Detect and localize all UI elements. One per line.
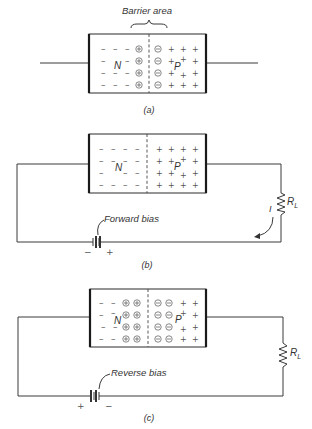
svg-text:+: + [156, 181, 163, 190]
n-region-label-a: N [114, 60, 122, 71]
svg-text:+: + [180, 171, 187, 180]
svg-text:–: – [111, 180, 116, 190]
svg-text:–: – [123, 156, 128, 166]
bias-label-b: Forward bias [104, 213, 159, 224]
junction-box-a [89, 34, 206, 93]
junction-box-b [89, 134, 206, 193]
svg-text:+: + [192, 169, 199, 178]
resistor-c [279, 343, 287, 367]
battery-sign-left-c: + [77, 401, 85, 411]
svg-text:–: – [125, 56, 130, 66]
svg-text:+: + [192, 335, 199, 344]
svg-text:–: – [101, 68, 106, 78]
svg-text:+: + [192, 323, 199, 332]
panel-a: Barrier area ––– –– ––– ––– N [40, 5, 258, 115]
svg-text:–: – [99, 156, 104, 166]
circuit-wire-right-c [206, 317, 283, 343]
bias-leader-c [99, 374, 110, 389]
svg-text:+: + [156, 157, 163, 166]
p-region-label-a: P [174, 61, 181, 72]
current-arrow-b [258, 217, 273, 236]
svg-text:+: + [192, 145, 199, 154]
resistor-label-c: RL [290, 347, 301, 360]
svg-text:–: – [99, 298, 104, 308]
n-region-label-b: N [115, 162, 123, 173]
battery-sign-right-c: − [105, 401, 113, 411]
bias-label-c: Reverse bias [111, 367, 167, 378]
svg-text:–: – [123, 180, 128, 190]
resistor-b [277, 193, 285, 215]
svg-text:+: + [192, 181, 199, 190]
svg-text:–: – [101, 80, 106, 90]
svg-text:–: – [125, 44, 130, 54]
barrier-brace [131, 20, 167, 28]
svg-text:–: – [99, 334, 104, 344]
caption-b: (b) [142, 260, 153, 270]
svg-text:–: – [111, 298, 116, 308]
battery-c [91, 390, 99, 402]
svg-text:+: + [192, 81, 199, 90]
svg-text:+: + [180, 145, 187, 154]
svg-text:+: + [192, 45, 199, 54]
svg-text:–: – [111, 334, 116, 344]
battery-sign-right-b: + [106, 247, 114, 257]
svg-text:–: – [135, 156, 140, 166]
caption-c: (c) [144, 413, 155, 423]
svg-text:–: – [123, 168, 128, 178]
circuit-wire-right-b [206, 164, 281, 193]
svg-text:–: – [101, 44, 106, 54]
resistor-label-b: RL [287, 196, 298, 209]
svg-text:+: + [180, 155, 187, 164]
svg-text:–: – [99, 180, 104, 190]
svg-text:+: + [156, 145, 163, 154]
circuit-wire-left-c [18, 317, 91, 396]
svg-text:–: – [99, 310, 104, 320]
svg-text:+: + [192, 57, 199, 66]
svg-text:+: + [192, 311, 199, 320]
svg-text:+: + [180, 335, 187, 344]
svg-text:–: – [125, 80, 130, 90]
svg-text:–: – [99, 168, 104, 178]
svg-text:+: + [192, 69, 199, 78]
svg-text:+: + [180, 45, 187, 54]
svg-text:–: – [135, 180, 140, 190]
pn-junction-diagram: Barrier area ––– –– ––– ––– N [0, 0, 312, 429]
panel-c: RL + − Reverse bias –– –– –– –– N [18, 289, 301, 423]
barrier-area-label: Barrier area [122, 5, 172, 16]
svg-text:–: – [101, 322, 106, 332]
svg-text:+: + [156, 169, 163, 178]
svg-text:+: + [192, 157, 199, 166]
battery-sign-left-b: − [84, 247, 92, 257]
battery-b [93, 236, 100, 248]
current-arrowhead-b [254, 233, 260, 239]
caption-a: (a) [144, 105, 155, 115]
svg-text:+: + [180, 325, 187, 334]
svg-text:+: + [168, 45, 175, 54]
svg-text:+: + [192, 299, 199, 308]
svg-text:–: – [113, 80, 118, 90]
svg-text:–: – [135, 168, 140, 178]
svg-text:+: + [168, 81, 175, 90]
svg-text:+: + [180, 71, 187, 80]
svg-text:–: – [123, 144, 128, 154]
n-region-label-c: N [114, 315, 122, 326]
p-region-label-b: P [174, 161, 181, 172]
p-region-label-c: P [175, 314, 182, 325]
panel-b: RL I − + Forward bias –––– –––– ––– ––––… [17, 134, 298, 270]
svg-text:–: – [113, 44, 118, 54]
svg-text:+: + [180, 55, 187, 64]
svg-text:+: + [180, 299, 187, 308]
svg-text:+: + [168, 181, 175, 190]
svg-text:+: + [180, 81, 187, 90]
current-label-b: I [269, 204, 272, 214]
svg-text:–: – [125, 68, 130, 78]
svg-text:–: – [111, 144, 116, 154]
svg-text:–: – [101, 56, 106, 66]
circuit-wire-left-b [17, 164, 93, 242]
svg-text:–: – [135, 144, 140, 154]
svg-text:+: + [180, 181, 187, 190]
svg-text:–: – [99, 144, 104, 154]
svg-text:+: + [168, 145, 175, 154]
